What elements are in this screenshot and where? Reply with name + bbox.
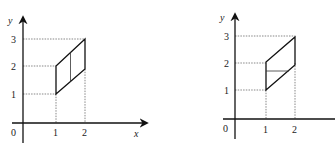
figure-canvas: y x 0 1 2 1 2 3 y 0 1 2 1 2 3 xyxy=(0,0,335,151)
left-x-label: x xyxy=(133,128,139,139)
right-y-tick-1: 1 xyxy=(224,85,229,96)
right-guide-lines xyxy=(235,36,295,119)
right-parallelogram xyxy=(266,37,295,90)
left-y-tick-3: 3 xyxy=(11,34,16,45)
left-y-tick-1: 1 xyxy=(11,89,16,100)
left-y-tick-2: 2 xyxy=(11,61,16,72)
left-panel: y x 0 1 2 1 2 3 xyxy=(7,15,147,143)
left-guide-lines xyxy=(23,39,85,123)
left-x-tick-2: 2 xyxy=(82,127,87,138)
right-origin-label: 0 xyxy=(223,123,228,134)
right-y-tick-2: 2 xyxy=(224,58,229,69)
right-y-tick-3: 3 xyxy=(224,31,229,42)
right-y-label: y xyxy=(219,12,225,23)
right-x-tick-2: 2 xyxy=(292,124,297,135)
left-origin-label: 0 xyxy=(11,127,16,138)
left-x-tick-1: 1 xyxy=(53,127,58,138)
right-panel: y 0 1 2 1 2 3 xyxy=(219,12,335,139)
left-y-label: y xyxy=(7,15,13,26)
right-x-tick-1: 1 xyxy=(263,124,268,135)
